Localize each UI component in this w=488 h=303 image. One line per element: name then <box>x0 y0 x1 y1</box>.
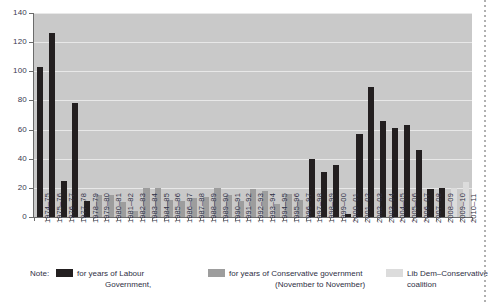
x-tick-label: 1978–79 <box>91 193 100 223</box>
x-tick-mark <box>294 217 295 221</box>
x-tick-mark <box>212 217 213 221</box>
y-tick-label: 140 <box>0 8 27 17</box>
x-tick-label: 2008–09 <box>446 193 455 223</box>
x-tick-label: 1992–93 <box>256 193 265 223</box>
x-tick-mark <box>200 217 201 221</box>
x-tick-label: 2007–08 <box>434 193 443 223</box>
bar <box>404 13 410 217</box>
x-tick-label: 2000–01 <box>351 193 360 223</box>
legend-label-conservative-line1: for years of Conservative government <box>229 269 362 278</box>
note-label: Note: <box>30 268 56 278</box>
bar <box>214 13 220 217</box>
x-tick-mark <box>46 217 47 221</box>
x-tick-label: 1985–86 <box>173 193 182 223</box>
bar <box>84 13 90 217</box>
bar <box>392 13 398 217</box>
y-tick-label: 120 <box>0 37 27 46</box>
legend-item-conservative: for years of Conservative government (No… <box>208 268 386 290</box>
x-tick-mark <box>436 217 437 221</box>
legend-item-labour: for years of Labour Government, <box>56 268 208 290</box>
x-tick-label: 1989–90 <box>221 193 230 223</box>
bar <box>143 13 149 217</box>
bar <box>463 13 469 217</box>
x-tick-mark <box>152 217 153 221</box>
x-tick-label: 2009–10 <box>458 193 467 223</box>
x-tick-mark <box>93 217 94 221</box>
x-tick-mark <box>235 217 236 221</box>
x-tick-label: 1987–88 <box>197 193 206 223</box>
legend-label-coalition-line1: Lib Dem–Conservative <box>407 269 488 278</box>
legend-label-labour-line2: Government, <box>77 279 151 290</box>
x-tick-mark <box>342 217 343 221</box>
x-tick-label: 1996–97 <box>304 193 313 223</box>
bar <box>368 13 374 217</box>
x-tick-label: 1981–82 <box>126 193 135 223</box>
x-tick-mark <box>81 217 82 221</box>
bar <box>191 13 197 217</box>
bar <box>203 13 209 217</box>
bar <box>309 13 315 217</box>
x-tick-mark <box>330 217 331 221</box>
x-tick-label: 2005–06 <box>410 193 419 223</box>
x-tick-mark <box>413 217 414 221</box>
x-tick-label: 1991–92 <box>244 193 253 223</box>
y-tick-label: 20 <box>0 183 27 192</box>
bar <box>262 13 268 217</box>
legend-label-conservative-line2: (November to November) <box>229 279 365 290</box>
x-tick-mark <box>70 217 71 221</box>
bar <box>108 13 114 217</box>
bar-series <box>34 13 472 217</box>
x-tick-label: 2001–02 <box>363 193 372 223</box>
legend-label-coalition-line2: coalition <box>407 279 488 290</box>
x-tick-label: 1982–83 <box>138 193 147 223</box>
x-tick-mark <box>377 217 378 221</box>
bar-labour <box>49 33 55 217</box>
x-tick-label: 1984–85 <box>162 193 171 223</box>
x-tick-mark <box>425 217 426 221</box>
legend-item-coalition: Lib Dem–Conservative coalition <box>386 268 488 290</box>
bar <box>416 13 422 217</box>
x-tick-mark <box>223 217 224 221</box>
x-tick-mark <box>365 217 366 221</box>
x-tick-mark <box>401 217 402 221</box>
bar <box>132 13 138 217</box>
bar <box>238 13 244 217</box>
y-tick-label: 80 <box>0 95 27 104</box>
bar <box>37 13 43 217</box>
x-tick-mark <box>117 217 118 221</box>
x-tick-mark <box>354 217 355 221</box>
x-tick-mark <box>247 217 248 221</box>
legend-label-labour-line1: for years of Labour <box>77 269 144 278</box>
x-tick-label: 1999–00 <box>339 193 348 223</box>
x-tick-mark <box>448 217 449 221</box>
page-edge-decoration <box>484 0 486 303</box>
x-tick-mark <box>164 217 165 221</box>
legend-label-conservative: for years of Conservative government (No… <box>229 268 365 290</box>
bar <box>96 13 102 217</box>
bar <box>167 13 173 217</box>
x-tick-label: 2006–07 <box>422 193 431 223</box>
x-tick-label: 1974–75 <box>43 193 52 223</box>
y-tick-label: 100 <box>0 66 27 75</box>
x-tick-label: 1975–76 <box>55 193 64 223</box>
x-tick-mark <box>129 217 130 221</box>
x-tick-mark <box>460 217 461 221</box>
bar <box>297 13 303 217</box>
legend-swatch-conservative <box>208 269 225 277</box>
x-tick-label: 2010–11 <box>469 194 478 223</box>
x-tick-mark <box>176 217 177 221</box>
legend-label-coalition: Lib Dem–Conservative coalition <box>407 268 488 290</box>
bar <box>451 13 457 217</box>
legend-swatch-coalition <box>386 269 403 277</box>
bar <box>274 13 280 217</box>
x-tick-label: 1997–98 <box>315 193 324 223</box>
x-tick-mark <box>105 217 106 221</box>
x-tick-label: 1976–77 <box>67 193 76 223</box>
bar <box>439 13 445 217</box>
x-tick-label: 1977–78 <box>79 193 88 223</box>
y-tick-label: 60 <box>0 125 27 134</box>
x-tick-mark <box>141 217 142 221</box>
x-tick-label: 1986–87 <box>185 193 194 223</box>
x-tick-label: 1994–95 <box>280 193 289 223</box>
bar <box>345 13 351 217</box>
